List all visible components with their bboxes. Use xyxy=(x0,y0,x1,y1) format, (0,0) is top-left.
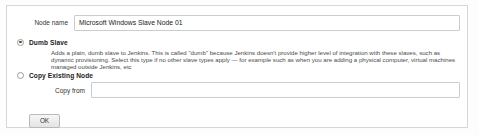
option-copy-existing-node-label: Copy Existing Node xyxy=(29,72,93,79)
node-name-label: Node name xyxy=(16,19,74,26)
node-name-input[interactable] xyxy=(74,15,460,31)
option-dumb-slave-label: Dumb Slave xyxy=(29,39,68,46)
radio-dumb-slave-icon[interactable] xyxy=(17,39,24,46)
button-bar: OK xyxy=(29,109,60,128)
copy-from-row: Copy from xyxy=(17,82,460,98)
option-dumb-slave-description: Adds a plain, dumb slave to Jenkins. Thi… xyxy=(51,49,456,71)
copy-from-label: Copy from xyxy=(17,87,91,94)
option-dumb-slave-head[interactable]: Dumb Slave xyxy=(17,37,461,47)
option-copy-existing-node-head[interactable]: Copy Existing Node xyxy=(17,70,461,80)
new-node-page: Node name Dumb Slave Adds a plain, dumb … xyxy=(0,0,479,135)
option-dumb-slave[interactable]: Dumb Slave Adds a plain, dumb slave to J… xyxy=(17,37,461,71)
copy-from-input[interactable] xyxy=(91,82,460,98)
option-copy-existing-node[interactable]: Copy Existing Node xyxy=(17,70,461,80)
ok-button[interactable]: OK xyxy=(29,114,60,128)
node-name-row: Node name xyxy=(16,14,460,31)
new-node-panel: Node name Dumb Slave Adds a plain, dumb … xyxy=(6,5,468,128)
radio-copy-existing-node-icon[interactable] xyxy=(17,72,24,79)
